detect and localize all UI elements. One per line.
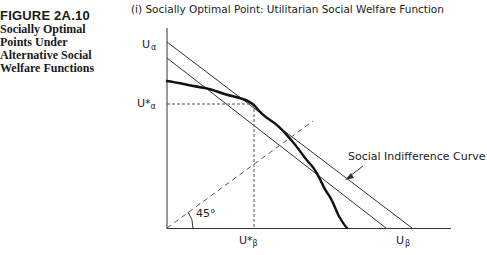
label-arrow-line [350,166,363,176]
social-indifference-line-outer [167,42,412,228]
u-star-beta-label: U*β [239,234,258,248]
forty-five-degree-line [167,121,313,228]
angle-label: 45° [196,207,216,220]
diagram-canvas: Uα U*α U*β Uβ 45° Social Indifference Cu… [0,0,487,255]
social-indifference-curve-label: Social Indifference Curve [348,150,486,163]
u-star-alpha-label: U*α [137,97,156,111]
angle-arc [188,212,193,228]
social-indifference-line-inner [167,58,386,228]
u-beta-label: Uβ [396,234,410,248]
utility-possibilities-frontier [167,81,347,228]
u-alpha-label: Uα [142,38,156,52]
